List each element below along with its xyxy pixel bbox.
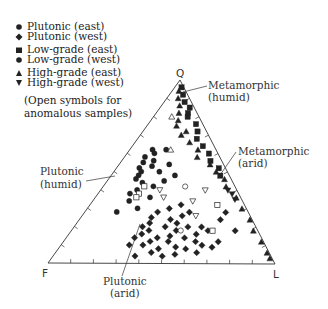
data-points	[114, 85, 273, 261]
diamond-point-icon	[192, 238, 198, 244]
field-label-plutonic-arid: Plutonic	[103, 275, 147, 287]
triangle-up-point-icon	[176, 110, 182, 115]
diamond-point-icon	[126, 242, 132, 248]
triangle-up-point-icon	[175, 117, 181, 122]
diamond-point-icon	[166, 205, 172, 211]
circle-point-icon	[133, 176, 138, 181]
field-label-plutonic-humid-sub: (humid)	[40, 178, 82, 190]
diamond-point-icon	[165, 238, 171, 244]
triangle-down-point-icon	[190, 199, 196, 204]
diamond-point-icon	[178, 202, 184, 208]
triangle-up-point-icon	[250, 228, 256, 233]
circle-point-icon	[162, 178, 167, 183]
diamond-point-icon	[223, 209, 229, 215]
vertex-label-q: Q	[176, 67, 184, 79]
axis-tick	[127, 153, 130, 155]
circle-point-icon	[151, 158, 156, 163]
diamond-point-icon	[179, 213, 185, 219]
square-point-icon	[210, 228, 215, 233]
diamond-point-icon	[193, 231, 199, 237]
field-label-plutonic-arid-sub: (arid)	[110, 287, 140, 299]
triangle-up-point-icon	[174, 123, 180, 128]
diamond-point-icon	[155, 246, 161, 252]
axis-tick	[205, 135, 209, 137]
diamond-point-icon	[172, 251, 178, 257]
diamond-point-icon	[132, 253, 138, 259]
diamond-point-icon	[159, 253, 165, 259]
diamond-point-icon	[215, 239, 221, 245]
diamond-point-icon	[209, 244, 215, 250]
diamond-point-icon	[198, 224, 204, 230]
diamond-point-icon	[199, 242, 205, 248]
triangle-down-point-icon	[193, 214, 199, 219]
diamond-point-icon	[172, 244, 178, 250]
diamond-point-icon	[131, 234, 137, 240]
triangle-down-point-icon	[202, 188, 208, 193]
diamond-point-icon	[139, 224, 145, 230]
triangle-up-point-icon	[195, 147, 201, 152]
ternary-diagram: Q F L Metamorphic (humid) Metamorphic (a…	[0, 0, 328, 309]
field-label-metamorphic-humid-sub: (humid)	[208, 91, 250, 103]
circle-point-icon	[149, 164, 154, 169]
diamond-point-icon	[154, 235, 160, 241]
diamond-point-icon	[186, 209, 192, 215]
square-point-icon	[182, 99, 187, 104]
circle-point-icon	[151, 184, 156, 189]
triangle-up-point-icon	[239, 206, 245, 211]
axis-tick	[224, 172, 228, 174]
diamond-point-icon	[146, 220, 152, 226]
axis-tick	[195, 117, 199, 119]
triangle-up-point-icon	[183, 128, 189, 133]
square-point-icon	[200, 144, 205, 149]
diamond-point-icon	[167, 233, 173, 239]
square-point-icon	[206, 151, 211, 156]
diamond-point-icon	[185, 224, 191, 230]
axis-tick	[101, 190, 104, 192]
axis-tick	[88, 208, 91, 210]
diamond-point-icon	[232, 228, 238, 234]
triangle-up-point-icon	[169, 114, 175, 119]
triangle-up-point-icon	[178, 132, 184, 137]
vertex-label-f: F	[42, 267, 48, 279]
field-label-plutonic-humid: Plutonic	[40, 165, 84, 177]
axis-tick	[61, 245, 64, 247]
vertex-label-l: L	[273, 268, 279, 280]
axis-tick	[167, 98, 170, 100]
diamond-point-icon	[162, 224, 168, 230]
axis-tick	[140, 135, 143, 137]
circle-point-icon	[152, 151, 157, 156]
triangle-up-point-icon	[175, 95, 181, 100]
circle-point-icon	[114, 209, 119, 214]
field-label-metamorphic-humid: Metamorphic	[208, 79, 280, 91]
diamond-point-icon	[167, 216, 173, 222]
square-point-icon	[187, 105, 192, 110]
square-point-icon	[185, 114, 190, 119]
leader-line	[86, 176, 115, 181]
diamond-point-icon	[174, 220, 180, 226]
diamond-point-icon	[148, 214, 154, 220]
square-point-icon	[134, 195, 139, 200]
axis-tick	[214, 154, 218, 156]
circle-point-icon	[183, 184, 188, 189]
circle-point-icon	[142, 154, 147, 159]
leader-line	[122, 224, 140, 276]
axis-tick	[154, 117, 157, 119]
diamond-point-icon	[217, 217, 223, 223]
leader-line	[183, 86, 207, 92]
triangle-down-point-icon	[161, 195, 167, 200]
square-point-icon	[195, 129, 200, 134]
diamond-point-icon	[140, 242, 146, 248]
square-point-icon	[194, 136, 199, 141]
circle-point-icon	[141, 160, 146, 165]
square-point-icon	[142, 184, 147, 189]
circle-point-icon	[157, 169, 162, 174]
circle-point-icon	[127, 198, 132, 203]
diamond-point-icon	[181, 235, 187, 241]
triangle-up-point-icon	[187, 139, 193, 144]
field-label-metamorphic-arid-sub: (arid)	[238, 157, 268, 169]
axis-tick	[74, 226, 77, 228]
circle-point-icon	[135, 206, 140, 211]
circle-point-icon	[127, 191, 132, 196]
diamond-point-icon	[154, 209, 160, 215]
circle-point-icon	[178, 228, 183, 233]
